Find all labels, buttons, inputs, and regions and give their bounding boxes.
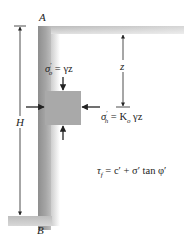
height-label: H xyxy=(16,117,24,128)
vertical-stress-equation: σ′o = γz xyxy=(45,62,73,77)
point-b-label: B xyxy=(37,225,44,236)
shear-strength-equation: τf = c′ + σ′ tan φ′ xyxy=(97,166,166,179)
ground-surface xyxy=(38,26,184,34)
soil-element xyxy=(45,91,81,125)
base xyxy=(8,216,52,226)
diagram-graphics xyxy=(0,0,192,238)
wall xyxy=(38,26,51,230)
point-a-label: A xyxy=(39,12,46,23)
lateral-earth-pressure-diagram: A B H z σ′o = γz σ′h = Ko γz τf = c′ + σ… xyxy=(0,0,192,238)
horizontal-stress-equation: σ′h = Ko γz xyxy=(101,110,142,125)
depth-label: z xyxy=(120,61,124,72)
